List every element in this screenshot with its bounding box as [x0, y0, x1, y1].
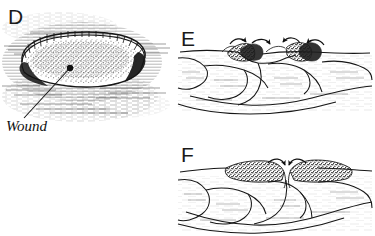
- panel-letter-f: F: [181, 143, 194, 166]
- panel-d-wound-crater: [20, 31, 146, 87]
- callout-anchor-dot: [67, 65, 73, 71]
- panel-letter-d: D: [8, 5, 23, 28]
- panel-letter-e: E: [181, 27, 195, 50]
- wound-healing-figure: Wound D: [0, 0, 375, 236]
- callout-label-wound: Wound: [6, 118, 48, 134]
- panel-f-dermis: [178, 176, 372, 233]
- panel-e-dermis: [178, 53, 372, 114]
- figure-canvas: Wound D: [0, 0, 375, 236]
